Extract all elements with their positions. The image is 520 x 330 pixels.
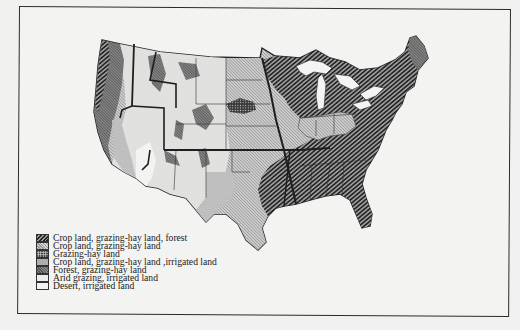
swatch-crop-grazing-forest-icon bbox=[36, 234, 49, 242]
swatch-crop-grazing-irrigated-icon bbox=[36, 258, 49, 266]
swatch-arid-grazing-icon bbox=[36, 274, 49, 282]
map-legend: Crop land, grazing-hay land, forest Crop… bbox=[36, 234, 217, 290]
region-florida bbox=[356, 196, 372, 228]
map-regions bbox=[94, 36, 428, 250]
swatch-desert-icon bbox=[36, 282, 49, 290]
legend-item: Desert, irrigated land bbox=[36, 282, 217, 290]
swatch-crop-grazing-icon bbox=[36, 242, 49, 250]
legend-label: Desert, irrigated land bbox=[53, 282, 134, 290]
swatch-forest-grazing-icon bbox=[36, 266, 49, 274]
swatch-grazing-hay-icon bbox=[36, 250, 49, 258]
